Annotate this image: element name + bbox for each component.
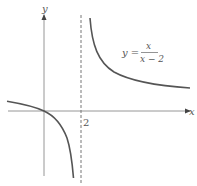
curve-right-branch bbox=[90, 18, 190, 88]
equation-numerator: x bbox=[146, 41, 151, 51]
graph-canvas: y x 2 y = x x − 2 bbox=[0, 0, 197, 186]
y-axis-label: y bbox=[41, 3, 48, 14]
tick-label-2: 2 bbox=[83, 117, 89, 128]
x-axis-label: x bbox=[189, 106, 195, 117]
equation-denominator: x − 2 bbox=[140, 54, 164, 64]
curve-left-branch bbox=[7, 101, 74, 178]
equation-lhs: y = bbox=[121, 47, 139, 58]
equation-label: y = x x − 2 bbox=[121, 41, 164, 64]
